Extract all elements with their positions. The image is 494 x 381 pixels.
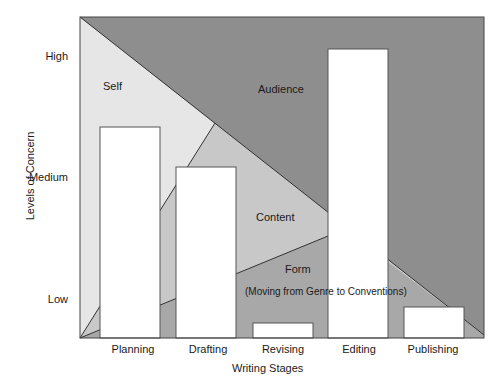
label-form-note: (Moving from Genre to Conventions) (245, 286, 407, 297)
label-audience: Audience (258, 83, 304, 95)
y-tick-high: High (28, 50, 68, 62)
x-tick-drafting: Drafting (168, 343, 248, 355)
y-tick-low: Low (28, 293, 68, 305)
bar-publishing (404, 307, 464, 338)
x-tick-planning: Planning (93, 343, 173, 355)
y-axis-title: Levels of Concern (24, 116, 36, 236)
label-form: Form (285, 263, 311, 275)
x-tick-publishing: Publishing (393, 343, 473, 355)
label-self: Self (103, 80, 122, 92)
x-axis-title: Writing Stages (232, 362, 303, 374)
plot-area (0, 0, 494, 381)
label-content: Content (256, 211, 295, 223)
bar-drafting (176, 167, 236, 338)
bar-revising (253, 323, 313, 338)
bar-planning (100, 127, 160, 338)
x-tick-editing: Editing (319, 343, 399, 355)
x-tick-revising: Revising (243, 343, 323, 355)
